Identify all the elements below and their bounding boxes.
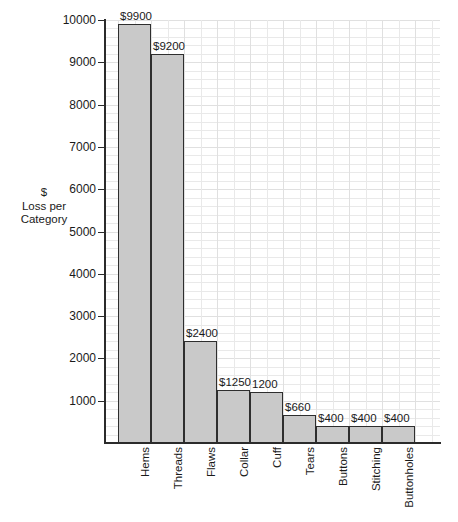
x-axis-category-label: Tears (305, 447, 317, 475)
y-axis-tick-mark (98, 232, 105, 233)
y-axis-title-line: Loss per (2, 200, 86, 214)
bar-value-label: $2400 (186, 328, 218, 340)
bar-chart: $9900$9200$2400$12501200$660$400$400$400… (0, 0, 458, 522)
x-axis-category-label: Threads (173, 447, 185, 489)
y-axis-tick-label: 4000 (36, 268, 96, 280)
bar (349, 426, 382, 443)
x-axis-category-label: Stitching (371, 447, 383, 491)
x-axis-category-label: Buttonholes (404, 447, 416, 508)
y-axis-tick-label: 8000 (36, 99, 96, 111)
bar (316, 426, 349, 443)
bar-value-label: $400 (351, 413, 377, 425)
y-axis-tick-label: 5000 (36, 226, 96, 238)
y-axis-tick-label: 7000 (36, 141, 96, 153)
bar (250, 392, 283, 443)
bar-value-label: $660 (285, 402, 311, 414)
y-axis-title-line: Category (2, 213, 86, 227)
y-axis-tick-label: 3000 (36, 310, 96, 322)
y-axis-tick-mark (98, 62, 105, 63)
bar-value-label: 1200 (252, 379, 278, 391)
y-axis-tick-mark (98, 358, 105, 359)
bar (118, 24, 151, 443)
bar-value-label: $9900 (120, 11, 152, 23)
bar-value-label: $400 (384, 413, 410, 425)
bars-layer: $9900$9200$2400$12501200$660$400$400$400 (105, 20, 440, 443)
bar (151, 54, 184, 443)
y-axis-title-line: $ (2, 186, 86, 200)
y-axis-tick-labels: 1000200030004000500060007000800090001000… (30, 0, 96, 522)
bar (184, 341, 217, 443)
x-axis-category-label: Hems (140, 447, 152, 477)
bar (283, 415, 316, 443)
x-axis-category-label: Collar (239, 447, 251, 477)
bar-value-label: $9200 (153, 41, 185, 53)
plot-area: $9900$9200$2400$12501200$660$400$400$400 (105, 20, 440, 443)
y-axis-tick-label: 2000 (36, 352, 96, 364)
y-axis-tick-label: 9000 (36, 56, 96, 68)
y-axis-tick-mark (98, 105, 105, 106)
bar (217, 390, 250, 443)
y-axis-tick-mark (98, 274, 105, 275)
bar-value-label: $400 (318, 413, 344, 425)
y-axis-tick-label: 10000 (36, 14, 96, 26)
y-axis-tick-label: 1000 (36, 395, 96, 407)
y-axis-tick-mark (98, 401, 105, 402)
y-axis-tick-mark (98, 147, 105, 148)
y-axis-tick-mark (98, 189, 105, 190)
x-axis-category-labels: HemsThreadsFlawsCollarCuffTearsButtonsSt… (105, 447, 440, 522)
y-axis-tick-mark (98, 20, 105, 21)
x-axis-category-label: Buttons (338, 447, 350, 486)
x-axis-category-label: Flaws (206, 447, 218, 477)
x-axis-line (104, 442, 441, 444)
x-axis-category-label: Cuff (272, 447, 284, 468)
y-axis-title: $Loss perCategory (2, 186, 86, 227)
bar (382, 426, 415, 443)
bar-value-label: $1250 (219, 377, 251, 389)
y-axis-tick-mark (98, 316, 105, 317)
